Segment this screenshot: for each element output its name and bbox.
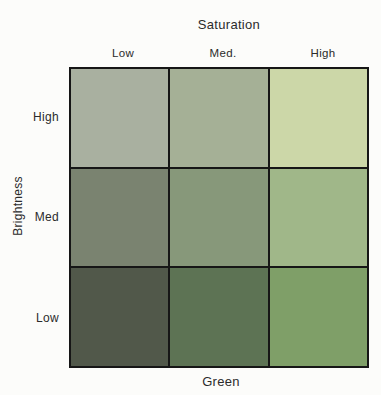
- row-label-low: Low: [0, 268, 59, 368]
- column-label-low: Low: [73, 47, 173, 59]
- cell-brightness-low-saturation-high: [270, 268, 367, 366]
- saturation-axis-title: Saturation: [79, 17, 379, 32]
- green-axis-title: Green: [71, 374, 371, 389]
- column-label-med: Med.: [173, 47, 273, 59]
- row-label-high: High: [0, 67, 59, 167]
- cell-brightness-med-saturation-high: [270, 169, 367, 267]
- brightness-tick-labels: High Med Low: [0, 67, 59, 368]
- color-matrix: [69, 67, 369, 368]
- cell-brightness-high-saturation-med: [170, 69, 267, 167]
- column-label-high: High: [273, 47, 373, 59]
- cell-brightness-low-saturation-low: [71, 268, 168, 366]
- cell-brightness-med-saturation-med: [170, 169, 267, 267]
- figure-canvas: Saturation Low Med. High Brightness High…: [0, 0, 381, 395]
- cell-brightness-low-saturation-med: [170, 268, 267, 366]
- cell-brightness-med-saturation-low: [71, 169, 168, 267]
- row-label-med: Med: [0, 167, 59, 267]
- cell-brightness-high-saturation-low: [71, 69, 168, 167]
- cell-brightness-high-saturation-high: [270, 69, 367, 167]
- saturation-tick-labels: Low Med. High: [73, 47, 373, 59]
